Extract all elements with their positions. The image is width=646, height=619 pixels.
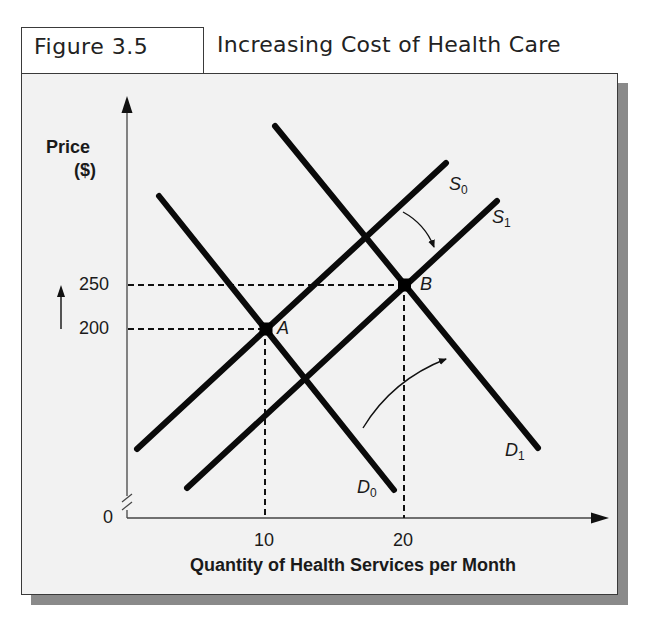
point-label-a: A — [277, 318, 289, 339]
supply-demand-chart — [0, 0, 646, 619]
curve-label-d0: D0 — [357, 477, 377, 500]
origin-label: 0 — [103, 507, 113, 528]
curve-label-s1-sub: 1 — [504, 216, 511, 230]
axis-break-icon — [122, 494, 132, 510]
y-axis — [122, 96, 133, 518]
x-tick-20: 20 — [393, 530, 413, 551]
y-tick-200: 200 — [79, 318, 109, 339]
equilibrium-point-a — [260, 323, 273, 336]
y-tick-250: 250 — [79, 274, 109, 295]
x-tick-10: 10 — [254, 530, 274, 551]
point-label-b: B — [420, 274, 432, 295]
x-axis — [127, 513, 609, 524]
equilibrium-point-b — [398, 279, 411, 292]
y-axis-arrow-icon — [122, 96, 133, 113]
curve-label-s0: S0 — [449, 174, 468, 197]
curve-label-s1: S1 — [492, 207, 511, 230]
curve-label-d0-main: D — [357, 477, 370, 497]
curve-label-d1: D1 — [505, 440, 525, 463]
x-axis-arrow-icon — [591, 513, 609, 524]
curve-label-d1-main: D — [505, 440, 518, 460]
y-axis-title-line1: Price — [46, 137, 90, 158]
curve-label-d1-sub: 1 — [518, 449, 525, 463]
curve-label-d0-sub: 0 — [370, 486, 377, 500]
curve-label-s0-main: S — [449, 174, 461, 194]
supply-shift-arrow-icon — [403, 212, 434, 247]
curve-label-s0-sub: 0 — [461, 183, 468, 197]
x-axis-title: Quantity of Health Services per Month — [190, 555, 516, 576]
price-increase-arrow-icon — [57, 285, 65, 329]
supply-curve-s0 — [137, 163, 446, 449]
y-axis-title-line2: ($) — [74, 160, 96, 181]
curve-label-s1-main: S — [492, 207, 504, 227]
